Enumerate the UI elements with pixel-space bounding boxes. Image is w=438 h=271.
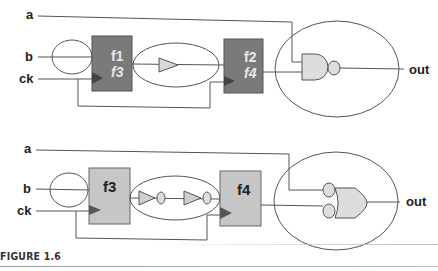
bottom-label-a: a: [24, 141, 32, 156]
bottom-wire-reg2-gate: [261, 205, 323, 206]
top-buffer-icon: [159, 58, 178, 72]
caption-rule: [0, 266, 438, 267]
bottom-label-ck: ck: [17, 203, 32, 218]
top-label-out: out: [409, 62, 430, 77]
bottom-inverter-1-icon: [139, 191, 155, 205]
bottom-circuit: [36, 150, 400, 250]
figure-caption: FIGURE 1.6: [0, 250, 438, 270]
top-register-2-label-2: f4: [244, 65, 257, 81]
bottom-or-input-bubble-1-icon: [323, 183, 335, 197]
caption-top-rule: [150, 244, 438, 245]
figure-caption-text: FIGURE 1.6: [0, 250, 61, 263]
top-register-1-label-2: f3: [111, 64, 124, 80]
top-label-ck: ck: [19, 71, 34, 86]
bottom-register-2-label: f4: [237, 181, 251, 198]
bottom-or-gate-icon: [335, 188, 367, 218]
bottom-label-b: b: [23, 181, 31, 196]
bottom-label-out: out: [406, 194, 427, 209]
top-wire-out: [340, 68, 404, 69]
bottom-register-2: [220, 171, 261, 226]
bottom-wire-b: [36, 189, 89, 190]
top-label-b: b: [25, 49, 33, 64]
top-nand-gate-icon: [302, 54, 328, 80]
bottom-register-1: [89, 168, 130, 224]
top-register-2-label-1: f2: [244, 49, 257, 65]
top-register-1-label-1: f1: [111, 48, 124, 64]
bottom-or-input-bubble-2-icon: [323, 204, 335, 218]
top-circuit: [38, 16, 404, 117]
bottom-output-cloud: [274, 152, 398, 250]
top-label-a: a: [26, 7, 34, 22]
top-nand-bubble-icon: [328, 61, 340, 75]
circuit-diagram: a b ck f1 f3 f2 f4 out a b ck f3 f4 out: [0, 0, 438, 271]
bottom-inverter-2-bubble-icon: [203, 192, 211, 204]
bottom-inverter-1-bubble-icon: [157, 192, 165, 204]
bottom-inverter-2-icon: [184, 191, 201, 205]
bottom-wire-a: [36, 150, 323, 190]
bottom-register-1-label: f3: [103, 178, 116, 195]
